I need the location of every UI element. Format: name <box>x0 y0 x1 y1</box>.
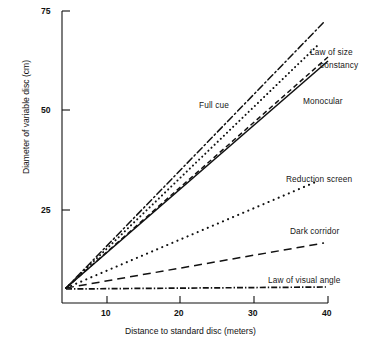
x-tick-label-10: 10 <box>101 308 111 318</box>
label-reduction-screen: Reduction screen <box>286 174 352 184</box>
label-law-of-size-constancy-line1: Law of size <box>310 47 353 57</box>
x-axis-title: Distance to standard disc (meters) <box>125 326 256 336</box>
y-axis-title: Diameter of variable disc (cm) <box>21 47 31 187</box>
label-law-of-visual-angle: Law of visual angle <box>268 275 340 285</box>
y-tick-label-50: 50 <box>41 105 51 115</box>
x-tick-label-20: 20 <box>174 308 184 318</box>
label-monocular: Monocular <box>303 96 343 106</box>
label-dark-corridor: Dark corridor <box>290 226 339 236</box>
label-law-of-size-constancy-line2: constancy <box>320 60 358 70</box>
series-full-cue <box>66 45 318 288</box>
label-full-cue: Full cue <box>199 100 229 110</box>
x-tick-label-30: 30 <box>248 308 258 318</box>
series-reduction-screen <box>66 181 318 288</box>
x-tick-label-40: 40 <box>322 308 332 318</box>
series-law-of-visual-angle <box>66 287 326 289</box>
chart-figure: 75 50 25 10 20 30 40 Diameter of variabl… <box>0 0 374 344</box>
y-tick-label-75: 75 <box>41 6 51 16</box>
y-tick-label-25: 25 <box>41 205 51 215</box>
series-monocular-dashed <box>66 57 328 288</box>
series-law-of-size-constancy <box>66 21 325 288</box>
